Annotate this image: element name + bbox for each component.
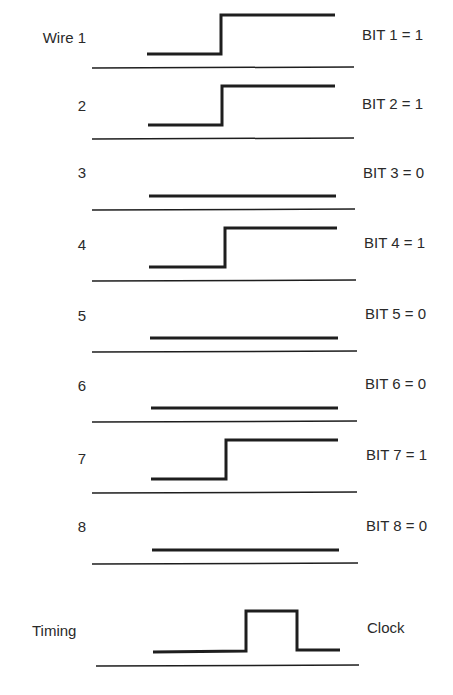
wire-1-baseline — [92, 67, 354, 68]
wire-label-6: 6 — [6, 377, 86, 395]
wire-label-1: Wire 1 — [6, 29, 86, 47]
bit-label-7: BIT 7 = 1 — [366, 446, 427, 464]
bit-label-2: BIT 2 = 1 — [362, 95, 423, 113]
timing-label: Timing — [32, 622, 76, 640]
wire-4-baseline — [92, 280, 356, 281]
bit-label-5: BIT 5 = 0 — [365, 305, 426, 323]
bit-label-1: BIT 1 = 1 — [362, 26, 423, 44]
wire-label-3: 3 — [6, 164, 86, 182]
clock-pulse — [153, 611, 340, 652]
clock-label: Clock — [367, 619, 405, 637]
wire-5-baseline — [92, 351, 357, 352]
timing-baseline — [96, 665, 359, 666]
wire-label-4: 4 — [6, 236, 86, 254]
bit-label-4: BIT 4 = 1 — [364, 234, 425, 252]
wire-label-2: 2 — [6, 97, 86, 115]
wire-2-baseline — [92, 138, 354, 139]
wire-label-5: 5 — [6, 307, 86, 325]
bit-label-8: BIT 8 = 0 — [366, 517, 427, 535]
wire-label-7: 7 — [6, 450, 86, 468]
bit-label-6: BIT 6 = 0 — [365, 375, 426, 393]
wire-7-signal-high — [151, 440, 338, 479]
wire-3-baseline — [92, 209, 355, 210]
wire-7-baseline — [92, 492, 357, 493]
wire-label-8: 8 — [6, 518, 86, 536]
wire-4-signal-high — [149, 228, 337, 267]
wire-1-signal-high — [147, 15, 335, 54]
wire-6-baseline — [92, 421, 357, 422]
wire-2-signal-high — [148, 86, 335, 125]
wire-8-baseline — [92, 563, 358, 564]
bit-label-3: BIT 3 = 0 — [363, 164, 424, 182]
